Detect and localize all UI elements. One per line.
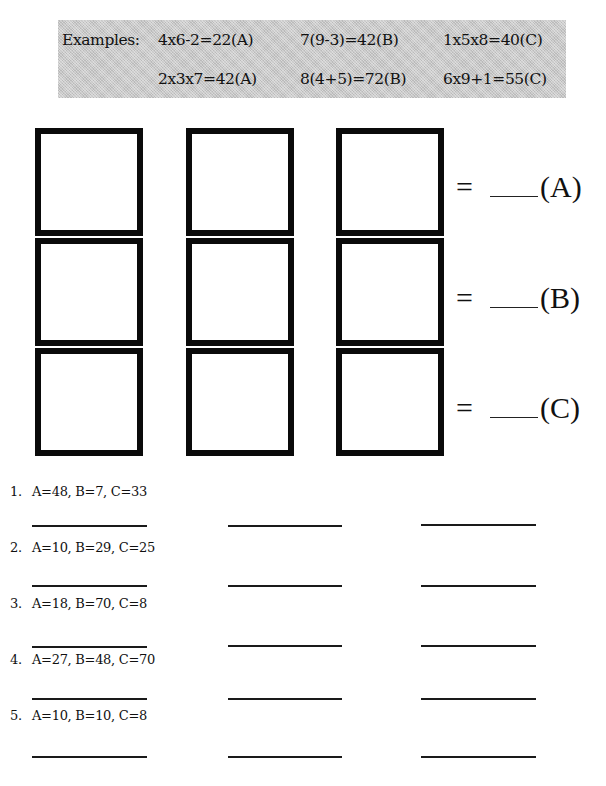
answer-blank-c: [490, 395, 538, 418]
digit-box-c2[interactable]: [186, 348, 294, 456]
answer-line-2-3[interactable]: [421, 585, 536, 587]
problem-number: 2.: [10, 541, 32, 554]
equation-b: =(B): [456, 283, 580, 313]
example-1a: 4x6-2=22(A): [158, 33, 253, 49]
problem-item-1: 1.A=48, B=7, C=33: [10, 485, 147, 498]
answer-line-3-2[interactable]: [228, 645, 342, 647]
equation-label-a: (A): [540, 170, 582, 203]
answer-line-4-2[interactable]: [228, 698, 342, 700]
example-2a: 2x3x7=42(A): [158, 72, 257, 88]
problem-item-5: 5.A=10, B=10, C=8: [10, 709, 147, 722]
problem-number: 5.: [10, 709, 32, 722]
answer-line-5-2[interactable]: [228, 756, 342, 758]
answer-line-1-2[interactable]: [228, 525, 342, 527]
digit-box-c3[interactable]: [336, 348, 444, 456]
problem-text: A=10, B=29, C=25: [32, 540, 155, 555]
example-1b: 7(9-3)=42(B): [300, 33, 398, 49]
digit-box-a2[interactable]: [186, 128, 294, 236]
digit-box-a1[interactable]: [35, 128, 143, 236]
problem-item-4: 4.A=27, B=48, C=70: [10, 653, 155, 666]
digit-box-b2[interactable]: [186, 238, 294, 346]
answer-line-4-1[interactable]: [32, 698, 147, 700]
problem-number: 4.: [10, 653, 32, 666]
problem-item-2: 2.A=10, B=29, C=25: [10, 541, 155, 554]
answer-line-3-3[interactable]: [421, 645, 536, 647]
equation-label-c: (C): [540, 391, 580, 424]
problem-number: 1.: [10, 485, 32, 498]
answer-line-2-1[interactable]: [32, 585, 147, 587]
answer-blank-a: [490, 174, 538, 197]
digit-box-b3[interactable]: [336, 238, 444, 346]
digit-box-b1[interactable]: [35, 238, 143, 346]
digit-box-a3[interactable]: [336, 128, 444, 236]
digit-box-c1[interactable]: [35, 348, 143, 456]
answer-line-2-2[interactable]: [228, 585, 342, 587]
equation-a: =(A): [456, 172, 582, 202]
problem-item-3: 3.A=18, B=70, C=8: [10, 597, 147, 610]
example-1c: 1x5x8=40(C): [443, 33, 542, 49]
equation-c: =(C): [456, 393, 580, 423]
examples-box: Examples: 4x6-2=22(A) 7(9-3)=42(B) 1x5x8…: [58, 20, 566, 98]
answer-blank-b: [490, 285, 538, 308]
problem-text: A=27, B=48, C=70: [32, 652, 155, 667]
answer-line-3-1[interactable]: [32, 646, 147, 648]
answer-line-5-1[interactable]: [32, 756, 147, 758]
equals-sign: =: [456, 393, 490, 423]
answer-line-5-3[interactable]: [421, 756, 536, 758]
equals-sign: =: [456, 172, 490, 202]
examples-label: Examples:: [62, 33, 140, 49]
answer-line-1-1[interactable]: [32, 525, 147, 527]
example-2c: 6x9+1=55(C): [443, 72, 547, 88]
problem-text: A=48, B=7, C=33: [32, 484, 147, 499]
equation-label-b: (B): [540, 281, 580, 314]
problem-text: A=10, B=10, C=8: [32, 708, 147, 723]
example-2b: 8(4+5)=72(B): [300, 72, 406, 88]
problem-text: A=18, B=70, C=8: [32, 596, 147, 611]
answer-line-1-3[interactable]: [421, 524, 536, 526]
answer-line-4-3[interactable]: [421, 698, 536, 700]
equals-sign: =: [456, 283, 490, 313]
problem-number: 3.: [10, 597, 32, 610]
